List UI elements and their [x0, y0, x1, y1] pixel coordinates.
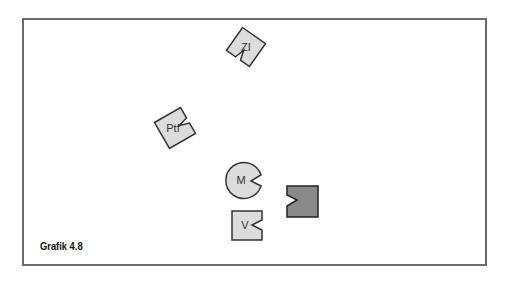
shape-label-zi: ZI: [241, 41, 251, 53]
shape-label-m: M: [236, 174, 245, 186]
figure-caption: Grafik 4.8: [40, 240, 83, 252]
shape-v: V: [232, 211, 262, 240]
shape-label-ptf: Ptf: [166, 122, 180, 134]
shape-ptf: Ptf: [155, 108, 196, 149]
shape-zi: ZI: [227, 28, 266, 67]
shape-m: M: [226, 163, 261, 199]
shape-label-v: V: [241, 219, 249, 231]
shape-dark: [287, 186, 318, 217]
